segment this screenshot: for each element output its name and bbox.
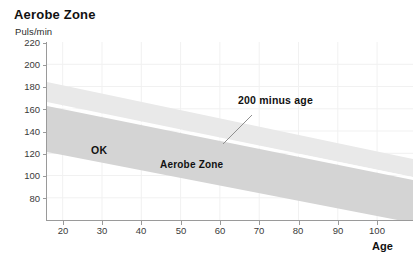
x-tick-mark-70: [259, 221, 260, 225]
x-tick-mark-80: [299, 221, 300, 225]
x-tick-mark-20: [63, 221, 64, 225]
annotation-aerobe-zone: Aerobe Zone: [160, 159, 223, 170]
chart-root: Aerobe Zone Puls/min: [0, 0, 416, 265]
x-tick-label-60: 60: [205, 226, 235, 236]
y-tick-label-220: 220: [8, 38, 40, 48]
y-tick-label-120: 120: [8, 149, 40, 159]
y-tick-mark-120: [43, 154, 47, 155]
y-tick-label-140: 140: [8, 127, 40, 137]
x-tick-label-30: 30: [87, 226, 117, 236]
y-tick-mark-180: [43, 87, 47, 88]
x-tick-label-80: 80: [283, 226, 313, 236]
y-tick-mark-220: [43, 43, 47, 44]
y-tick-mark-160: [43, 109, 47, 110]
x-tick-mark-30: [102, 221, 103, 225]
x-tick-mark-40: [141, 221, 142, 225]
x-tick-label-100: 100: [362, 226, 392, 236]
y-tick-label-200: 200: [8, 60, 40, 70]
y-tick-mark-80: [43, 198, 47, 199]
y-tick-label-160: 160: [8, 105, 40, 115]
x-tick-mark-100: [377, 221, 378, 225]
x-tick-label-20: 20: [48, 226, 78, 236]
x-tick-mark-90: [338, 221, 339, 225]
y-tick-label-100: 100: [8, 171, 40, 181]
x-tick-label-70: 70: [244, 226, 274, 236]
y-tick-label-80: 80: [8, 194, 40, 204]
plot-area: [47, 42, 413, 220]
x-axis-title: Age: [372, 240, 393, 252]
y-tick-label-180: 180: [8, 82, 40, 92]
y-tick-mark-200: [43, 65, 47, 66]
page-title: Aerobe Zone: [14, 7, 96, 22]
x-tick-mark-50: [181, 221, 182, 225]
y-tick-mark-140: [43, 132, 47, 133]
y-tick-mark-100: [43, 176, 47, 177]
annotation-ok: OK: [91, 144, 107, 156]
x-tick-label-90: 90: [323, 226, 353, 236]
x-tick-mark-60: [220, 221, 221, 225]
x-tick-label-40: 40: [126, 226, 156, 236]
x-tick-label-50: 50: [166, 226, 196, 236]
y-axis-unit-label: Puls/min: [15, 26, 52, 37]
chart-canvas: [47, 42, 413, 220]
annotation-formula: 200 minus age: [238, 94, 313, 106]
